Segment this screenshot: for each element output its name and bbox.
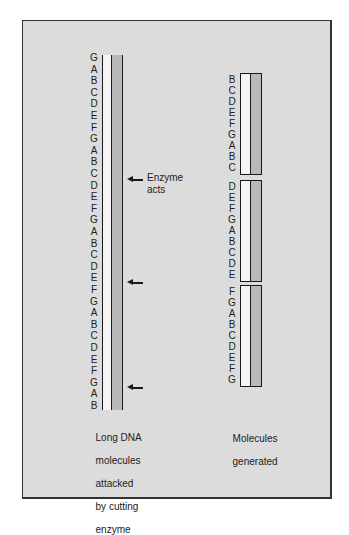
molecule-fragment-2	[240, 180, 262, 282]
base-letter: G	[88, 52, 100, 63]
base-letter: E	[88, 191, 100, 202]
base-letter: A	[88, 145, 100, 156]
base-letter: B	[226, 319, 238, 330]
base-letter: E	[226, 269, 238, 280]
enzyme-label: Enzymeacts	[147, 172, 183, 195]
base-letter: C	[88, 168, 100, 179]
base-letter: D	[88, 98, 100, 109]
strand-dark-half	[251, 286, 261, 386]
base-letter: D	[226, 341, 238, 352]
molecule-fragment-1	[240, 73, 262, 175]
long-dna-strand	[102, 55, 124, 410]
base-letter: C	[226, 85, 238, 96]
base-letter: B	[88, 156, 100, 167]
base-letter: B	[88, 75, 100, 86]
base-letter: G	[226, 297, 238, 308]
caption-line: generated	[233, 456, 278, 467]
left-caption: Long DNA molecules attacked by cutting e…	[90, 420, 142, 535]
caption-line: Long DNA	[96, 432, 142, 443]
base-letter: B	[226, 74, 238, 85]
base-letter: F	[88, 284, 100, 295]
molecule-fragment-3	[240, 285, 262, 387]
base-letter: A	[88, 388, 100, 399]
base-letter: A	[88, 226, 100, 237]
base-letter: C	[88, 330, 100, 341]
caption-line: by cutting	[96, 501, 139, 512]
base-letter: B	[226, 236, 238, 247]
base-letter: F	[226, 118, 238, 129]
strand-light-half	[102, 55, 112, 410]
base-letter: B	[88, 319, 100, 330]
base-letter: G	[88, 377, 100, 388]
base-letter: A	[226, 140, 238, 151]
base-letter: E	[226, 192, 238, 203]
base-letter: F	[88, 203, 100, 214]
caption-line: molecules	[96, 455, 141, 466]
base-letter: E	[226, 352, 238, 363]
base-letter: D	[226, 258, 238, 269]
base-letter: B	[226, 151, 238, 162]
base-letter: A	[226, 308, 238, 319]
base-letter: A	[226, 225, 238, 236]
base-letter: F	[88, 122, 100, 133]
base-letter: C	[88, 249, 100, 260]
base-letter: D	[226, 181, 238, 192]
base-letter: E	[88, 354, 100, 365]
caption-line: enzyme	[96, 524, 131, 535]
base-letter: C	[88, 87, 100, 98]
base-letter: G	[226, 214, 238, 225]
strand-light-half	[241, 74, 251, 174]
base-letter: E	[88, 110, 100, 121]
base-letter: G	[226, 374, 238, 385]
base-letter: C	[226, 162, 238, 173]
caption-line: Molecules	[233, 433, 278, 444]
strand-light-half	[241, 181, 251, 281]
base-letter: C	[226, 247, 238, 258]
base-letter: A	[88, 64, 100, 75]
enzyme-label-line1: Enzyme	[147, 172, 183, 183]
base-letter: A	[88, 307, 100, 318]
base-letter: F	[226, 203, 238, 214]
base-letter: E	[88, 272, 100, 283]
base-letter: F	[226, 363, 238, 374]
base-letter: G	[88, 133, 100, 144]
base-letter: D	[88, 180, 100, 191]
base-letter: D	[226, 96, 238, 107]
base-letter: E	[226, 107, 238, 118]
base-letter: G	[88, 296, 100, 307]
strand-light-half	[241, 286, 251, 386]
base-letter: F	[88, 365, 100, 376]
figure-frame	[22, 20, 332, 499]
caption-line: attacked	[96, 478, 134, 489]
strand-dark-half	[112, 55, 123, 410]
base-letter: B	[88, 238, 100, 249]
base-letter: D	[88, 261, 100, 272]
base-letter: G	[88, 214, 100, 225]
enzyme-label-line2: acts	[147, 184, 165, 195]
base-letter: F	[226, 286, 238, 297]
strand-dark-half	[251, 74, 261, 174]
base-letter: C	[226, 330, 238, 341]
base-letter: B	[88, 400, 100, 411]
base-letter: G	[226, 129, 238, 140]
right-caption: Molecules generated	[227, 421, 278, 467]
base-letter: D	[88, 342, 100, 353]
strand-dark-half	[251, 181, 261, 281]
